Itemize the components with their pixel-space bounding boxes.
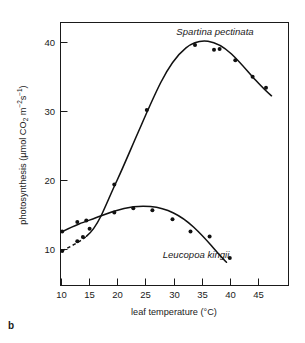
x-tick-label-25: 25 — [140, 289, 151, 300]
svg-text:photosynthesis (µmol CO2 m−2s−: photosynthesis (µmol CO2 m−2s−1) — [16, 85, 29, 224]
plot-frame — [61, 23, 289, 286]
y-tick-label-20: 20 — [44, 175, 55, 186]
data-point — [88, 227, 92, 231]
data-point — [264, 86, 268, 90]
y-axis-title-mid: m — [18, 107, 28, 118]
y-tick-label-30: 30 — [44, 106, 55, 117]
y-axis-title-tail: ) — [18, 85, 28, 88]
data-point — [60, 249, 64, 253]
panel-label-b: b — [8, 321, 14, 331]
data-point — [208, 235, 212, 239]
spartina-pectinata-curve — [87, 41, 272, 236]
data-point — [218, 47, 222, 51]
data-point — [60, 230, 64, 234]
x-tick-label-40: 40 — [225, 289, 236, 300]
photosynthesis-temperature-chart: 40 30 20 10 10 15 20 25 30 35 40 45 leaf… — [0, 0, 305, 343]
data-point — [75, 220, 79, 224]
x-tick-label-45: 45 — [253, 289, 264, 300]
data-point — [112, 183, 116, 187]
series-label-spartina-pectinata: Spartina pectinata — [176, 26, 253, 37]
spartina-pectinata-points — [60, 43, 268, 253]
data-point — [84, 219, 88, 223]
x-axis-ticks — [62, 279, 259, 286]
x-axis-title: leaf temperature (°C) — [131, 307, 217, 317]
y-axis-title-main: photosynthesis (µmol CO — [18, 121, 28, 224]
figure-panel-b: 40 30 20 10 10 15 20 25 30 35 40 45 leaf… — [0, 0, 305, 343]
data-point — [251, 75, 255, 79]
data-point — [193, 43, 197, 47]
data-point — [81, 235, 85, 239]
series-label-leucopoa-kingii: Leucopoa kingii — [163, 249, 231, 260]
data-point — [75, 239, 79, 243]
y-tick-label-10: 10 — [44, 244, 55, 255]
data-point — [150, 208, 154, 212]
data-point — [212, 48, 216, 52]
data-point — [189, 230, 193, 234]
x-tick-label-15: 15 — [84, 289, 95, 300]
x-tick-label-20: 20 — [112, 289, 123, 300]
y-axis-title: photosynthesis (µmol CO2 m−2s−1) — [16, 85, 29, 224]
data-point — [145, 108, 149, 112]
data-point — [171, 217, 175, 221]
data-point — [112, 210, 116, 214]
x-tick-label-30: 30 — [169, 289, 180, 300]
x-tick-label-35: 35 — [197, 289, 208, 300]
data-point — [131, 206, 135, 210]
data-point — [233, 58, 237, 62]
x-tick-label-10: 10 — [56, 289, 67, 300]
y-axis-ticks — [61, 43, 68, 250]
y-tick-label-40: 40 — [44, 37, 55, 48]
